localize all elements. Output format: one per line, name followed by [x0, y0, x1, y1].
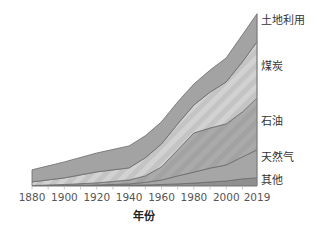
legend-label-gas: 天然气: [261, 152, 294, 164]
x-tick-2000: 2000: [213, 191, 240, 203]
x-axis-title: 年份: [133, 207, 155, 223]
x-tick-2019: 2019: [244, 191, 271, 203]
legend-label-other: 其他: [261, 175, 283, 187]
x-tick-1960: 1960: [148, 191, 175, 203]
x-tick-1880: 1880: [19, 191, 46, 203]
x-tick-1920: 1920: [83, 191, 110, 203]
x-tick-1980: 1980: [181, 191, 208, 203]
x-tick-1940: 1940: [116, 191, 143, 203]
x-tick-1900: 1900: [51, 191, 78, 203]
legend-label-oil: 石油: [261, 116, 283, 128]
legend-label-land-use: 土地利用: [261, 15, 305, 27]
legend-label-coal: 煤炭: [261, 61, 283, 73]
